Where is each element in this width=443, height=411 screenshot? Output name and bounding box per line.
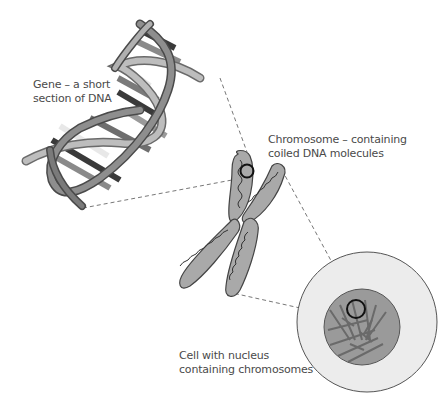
dna-chromosome-cell-diagram: Gene – a short section of DNA Chromosome… <box>0 0 443 411</box>
chromosome-label-line-1: Chromosome – containing <box>268 133 407 147</box>
gene-label-line-2: section of DNA <box>33 92 112 106</box>
cell-label-line-1: Cell with nucleus <box>179 349 313 363</box>
cell-label: Cell with nucleus containing chromosomes <box>179 349 313 377</box>
cell-label-line-2: containing chromosomes <box>179 363 313 377</box>
gene-label: Gene – a short section of DNA <box>33 78 112 106</box>
chromosome <box>180 151 285 297</box>
dna-double-helix <box>26 24 200 206</box>
chromosome-label-line-2: coiled DNA molecules <box>268 147 407 161</box>
cell <box>297 252 437 392</box>
chromosome-label: Chromosome – containing coiled DNA molec… <box>268 133 407 161</box>
dna-to-chromosome-line-top <box>220 78 247 152</box>
gene-label-line-1: Gene – a short <box>33 78 112 92</box>
nucleus <box>324 289 400 365</box>
